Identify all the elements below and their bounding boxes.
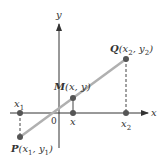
- x-axis-label: x: [151, 107, 157, 118]
- m-label: M(x, y): [53, 81, 91, 92]
- origin-label: 0: [51, 116, 57, 126]
- x1-label: x1: [14, 98, 24, 112]
- q-label: Q(x2, y2): [110, 43, 153, 57]
- y-axis-label: y: [55, 9, 62, 20]
- tick-x2-dot: [123, 110, 129, 116]
- midpoint-diagram: y x 0 x1 x x2 P(x1, y1) Q(x2, y2) M(x, y…: [0, 0, 162, 159]
- p-label: P(x1, y1): [10, 143, 53, 157]
- point-m: [70, 95, 76, 101]
- x2-label: x2: [121, 118, 131, 132]
- point-p: [17, 134, 23, 140]
- x-label: x: [70, 116, 76, 127]
